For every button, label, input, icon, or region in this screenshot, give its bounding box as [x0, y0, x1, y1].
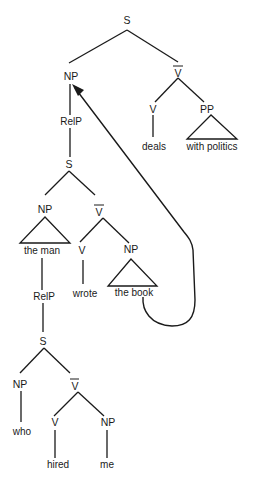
leaf-deals: deals: [142, 141, 166, 152]
node-vbar-main: V: [174, 67, 181, 79]
edge-vbar-v: [155, 78, 178, 102]
node-np-obj-1: NP: [124, 243, 139, 255]
arrowhead-icon: [72, 84, 84, 96]
node-np-2: NP: [13, 378, 28, 390]
leaf-hired: hired: [47, 459, 69, 470]
edge-s2-np: [20, 348, 44, 373]
edge-vbar1-v: [80, 218, 103, 242]
node-np-obj-2: NP: [101, 416, 116, 428]
triangle-np-1: [20, 217, 70, 243]
edge-s1-vbar: [69, 171, 95, 195]
node-vbar-2: V: [71, 380, 78, 392]
node-vbar-1: V: [95, 206, 102, 218]
node-relp-2: RelP: [33, 291, 55, 302]
edge-s1-np: [45, 171, 69, 195]
node-v-main: V: [149, 103, 156, 115]
node-relp-1: RelP: [60, 116, 82, 127]
node-s-2: S: [39, 335, 46, 347]
leaf-me: me: [100, 459, 114, 470]
leaf-the-book: the book: [115, 287, 154, 298]
leaf-the-man: the man: [24, 245, 60, 256]
edge-s-vbar: [127, 30, 178, 62]
triangle-pp: [187, 115, 237, 139]
node-np-1: NP: [38, 203, 53, 215]
triangle-np-obj-1: [108, 259, 157, 286]
edge-vbar-pp: [178, 78, 204, 102]
leaf-with-politics: with politics: [185, 141, 237, 152]
edge-s2-vbar: [44, 348, 70, 373]
syntax-tree-diagram: S NP V V deals PP with politics RelP S N…: [0, 0, 254, 485]
node-v-2: V: [51, 416, 58, 428]
node-v-1: V: [78, 244, 85, 256]
node-np-main: NP: [64, 70, 79, 82]
leaf-wrote: wrote: [72, 288, 98, 299]
edge-vbar1-np: [103, 218, 129, 243]
edge-s-np: [69, 30, 127, 63]
edge-vbar2-v: [54, 392, 78, 416]
leaf-who: who: [12, 426, 32, 437]
edge-vbar2-np: [78, 392, 104, 416]
node-s-1: S: [65, 158, 72, 170]
node-s-root: S: [123, 14, 130, 26]
node-pp-main: PP: [200, 103, 214, 115]
